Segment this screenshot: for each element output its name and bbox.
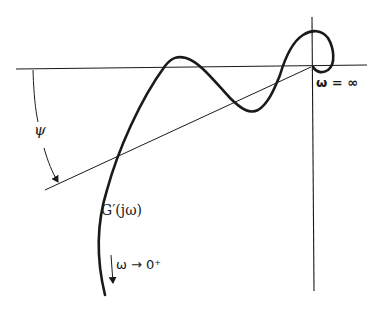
angle-label: ψ [34, 121, 46, 139]
low-freq-arrow [111, 255, 113, 283]
high-freq-label: ω = ∞ [316, 75, 358, 90]
low-freq-label: ω → 0⁺ [116, 257, 161, 272]
angle-arc [33, 70, 38, 122]
nyquist-diagram: ψ G′(jω) ω = ∞ ω → 0⁺ [0, 0, 379, 309]
curve-label: G′(jω) [101, 202, 142, 218]
nyquist-curve [99, 31, 333, 295]
reference-line [45, 67, 311, 190]
imaginary-axis [312, 17, 314, 291]
angle-arc-lower [44, 148, 58, 182]
